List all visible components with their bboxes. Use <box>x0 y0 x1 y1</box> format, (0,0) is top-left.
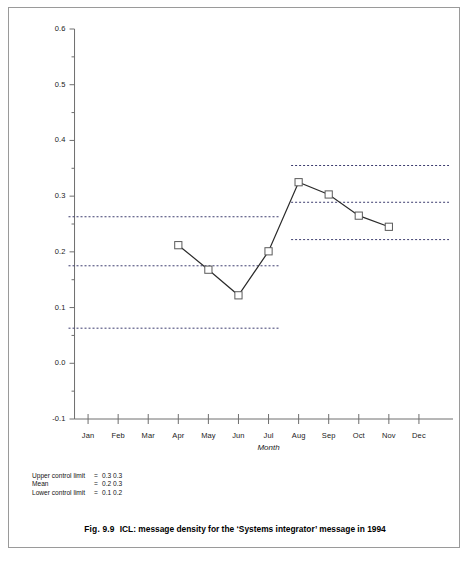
data-point-marker[interactable] <box>385 223 392 230</box>
x-tick-label-feb: Feb <box>101 431 135 440</box>
x-tick-label-sep: Sep <box>312 431 346 440</box>
data-point-marker[interactable] <box>265 248 272 255</box>
control-limit-row: Mean=0.2 0.3 <box>32 480 122 488</box>
control-limit-values: 0.3 0.3 <box>102 472 122 480</box>
control-limit-row: Lower control limit=0.1 0.2 <box>32 489 122 497</box>
control-limit-equals: = <box>94 489 102 497</box>
data-point-marker[interactable] <box>235 292 242 299</box>
x-tick-label-jan: Jan <box>71 431 105 440</box>
x-axis-title: Month <box>219 443 319 452</box>
data-point-marker[interactable] <box>295 179 302 186</box>
x-tick-label-apr: Apr <box>161 431 195 440</box>
series-line-message-density <box>178 182 389 295</box>
x-tick-label-mar: Mar <box>131 431 165 440</box>
y-tick-label: 0.1 <box>36 303 66 312</box>
control-limits-summary: Upper control limit=0.3 0.3Mean=0.2 0.3L… <box>32 472 122 497</box>
caption-text: ICL: message density for the ‘Systems in… <box>120 524 386 534</box>
control-limit-name: Mean <box>32 480 94 488</box>
y-tick-label: 0.6 <box>36 24 66 33</box>
control-chart-plot <box>9 8 461 549</box>
x-tick-label-dec: Dec <box>402 431 436 440</box>
y-tick-label: 0.3 <box>36 191 66 200</box>
y-tick-label: -0.1 <box>36 414 66 423</box>
x-tick-label-jul: Jul <box>252 431 286 440</box>
y-tick-label: 0.4 <box>36 135 66 144</box>
figure-frame: -0.10.00.10.20.30.40.50.6 JanFebMarAprMa… <box>8 7 460 548</box>
x-tick-label-nov: Nov <box>372 431 406 440</box>
x-tick-label-aug: Aug <box>282 431 316 440</box>
data-point-marker[interactable] <box>355 212 362 219</box>
data-point-marker[interactable] <box>175 242 182 249</box>
data-point-marker[interactable] <box>325 191 332 198</box>
control-limit-values: 0.1 0.2 <box>102 489 122 497</box>
control-limit-name: Upper control limit <box>32 472 94 480</box>
figure-caption: Fig. 9.9ICL: message density for the ‘Sy… <box>9 524 461 534</box>
control-limit-values: 0.2 0.3 <box>102 480 122 488</box>
data-point-marker[interactable] <box>205 266 212 273</box>
caption-number: Fig. 9.9 <box>84 524 114 534</box>
control-limit-equals: = <box>94 472 102 480</box>
control-limit-name: Lower control limit <box>32 489 94 497</box>
x-tick-label-jun: Jun <box>221 431 255 440</box>
x-tick-label-oct: Oct <box>342 431 376 440</box>
y-tick-label: 0.0 <box>36 358 66 367</box>
control-limit-row: Upper control limit=0.3 0.3 <box>32 472 122 480</box>
control-limit-equals: = <box>94 480 102 488</box>
y-tick-label: 0.2 <box>36 247 66 256</box>
x-tick-label-may: May <box>191 431 225 440</box>
y-tick-label: 0.5 <box>36 80 66 89</box>
